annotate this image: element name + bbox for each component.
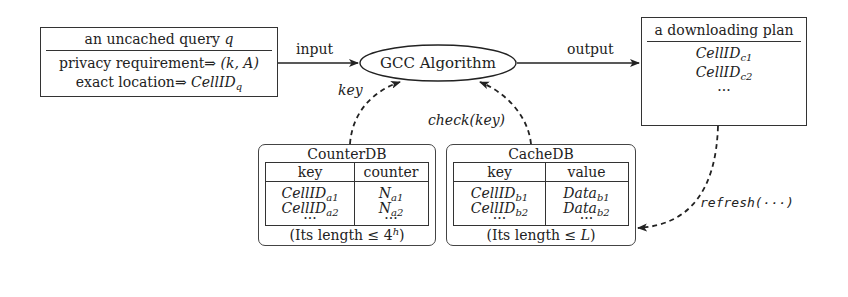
cache-db-footer: (Its length ≤ L): [447, 227, 635, 243]
algorithm-label: GCC Algorithm: [360, 55, 516, 71]
output-label: output: [567, 41, 614, 57]
query-divider: [46, 50, 272, 51]
plan-item: CellIDc2: [642, 64, 806, 80]
table-ellipsis: ···: [545, 210, 628, 226]
table-cell: CellIDa1: [266, 185, 354, 201]
column-header: counter: [354, 164, 428, 180]
column-header: value: [545, 164, 628, 180]
column-header: key: [454, 164, 545, 180]
refresh-label: refresh(···): [700, 195, 794, 211]
table-cell: CellIDb1: [454, 185, 545, 201]
query-box: an uncached query q privacy requirement⇒…: [40, 27, 278, 97]
query-title: an uncached query q: [41, 31, 277, 47]
plan-box: a downloading plan CellIDc1 CellIDc2 ···: [641, 17, 807, 126]
privacy-requirement: privacy requirement⇒ (k, A): [41, 55, 277, 71]
cache-db-title: CacheDB: [447, 146, 635, 162]
table-cell: Datab1: [545, 185, 628, 201]
check-label: check(key): [428, 112, 505, 128]
exact-location: exact location⇒ CellIDq: [41, 74, 277, 90]
plan-divider: [647, 41, 801, 42]
table-cell: Na1: [354, 185, 428, 201]
plan-item: CellIDc1: [642, 45, 806, 61]
counter-db-footer: (Its length ≤ 4h): [259, 227, 435, 243]
refresh-arrow: [638, 126, 718, 228]
input-label: input: [296, 41, 333, 57]
plan-ellipsis: ···: [642, 82, 806, 98]
cache-db: CacheDB key value CellIDb1 Datab1 CellID…: [446, 144, 636, 246]
counter-db-title: CounterDB: [259, 146, 435, 162]
table-ellipsis: ···: [266, 210, 354, 226]
table-ellipsis: ···: [354, 210, 428, 226]
plan-title: a downloading plan: [642, 22, 806, 38]
counter-db: CounterDB key counter CellIDa1 Na1 CellI…: [258, 144, 436, 246]
key-label: key: [338, 82, 363, 98]
table-ellipsis: ···: [454, 210, 545, 226]
column-header: key: [266, 164, 354, 180]
counter-db-table: key counter CellIDa1 Na1 CellIDa2 Na2 ··…: [265, 162, 429, 226]
cache-db-table: key value CellIDb1 Datab1 CellIDb2 Datab…: [453, 162, 629, 226]
